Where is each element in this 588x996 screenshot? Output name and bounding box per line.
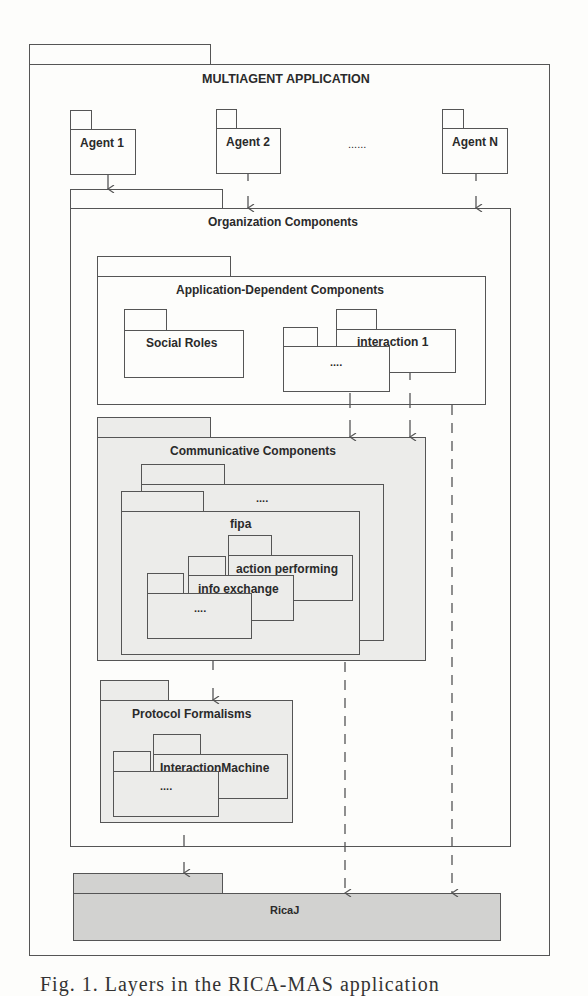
- figure-caption: Fig. 1. Layers in the RICA-MAS applicati…: [40, 973, 440, 996]
